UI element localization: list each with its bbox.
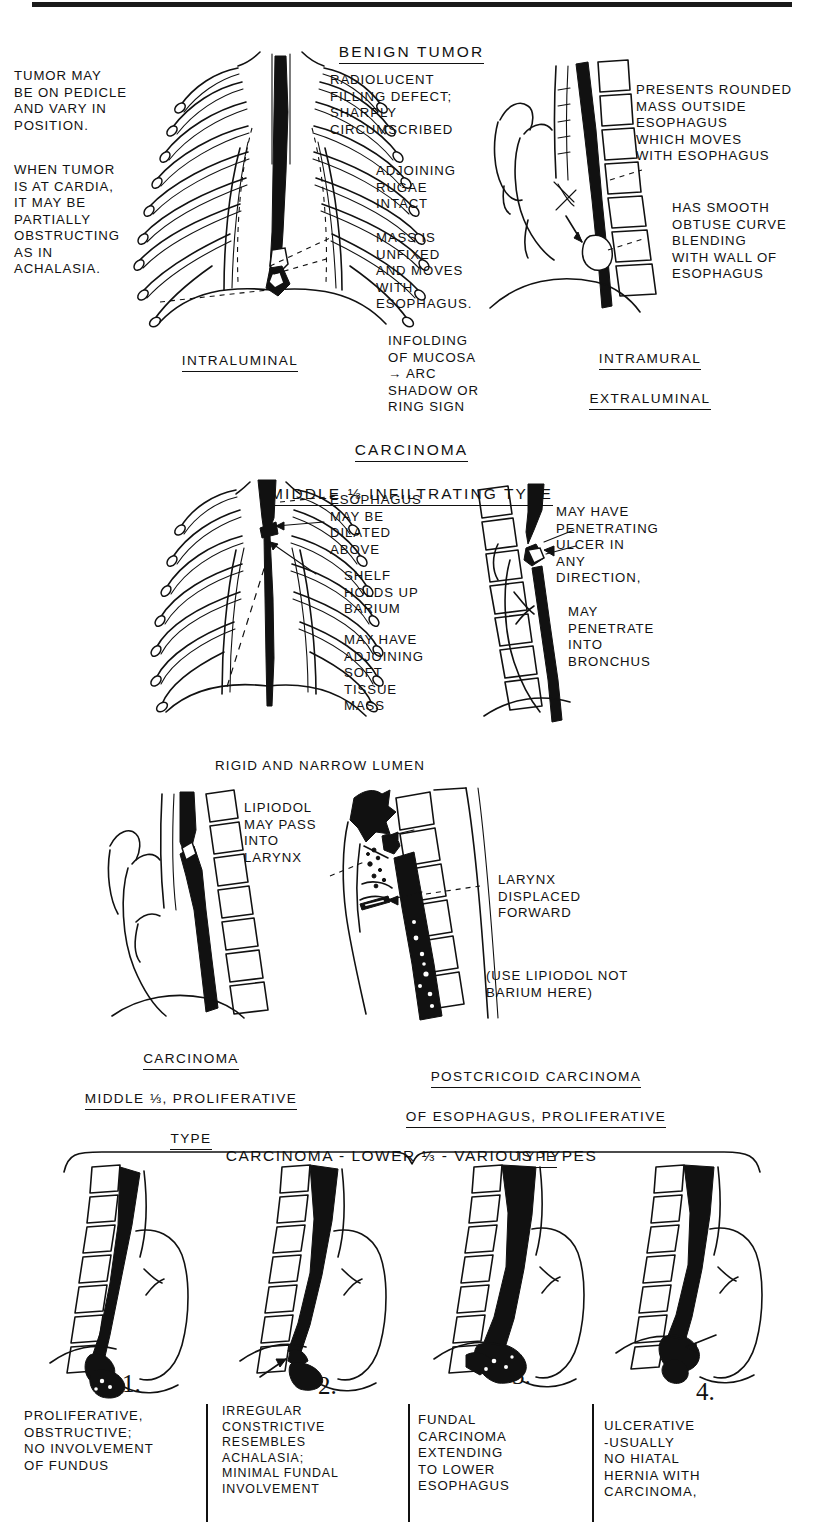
panel-divider-3 [592,1404,594,1522]
annotation-penetrating-ulcer: MAY HAVE PENETRATING ULCER IN ANY DIRECT… [556,504,716,587]
caption-mtp-line2: MIDDLE ⅓, PROLIFERATIVE [85,1089,297,1110]
lower-third-panel-3-drawing [424,1165,599,1380]
annotation-shelf-holds-barium: SHELF HOLDS UP BARIUM [344,568,474,618]
panel-number-3: 3. [512,1362,531,1390]
illustration-page: BENIGN TUMOR [0,0,823,1533]
annotation-use-lipiodol-note: (USE LIPIODOL NOT BARIUM HERE) [486,968,686,1001]
panel-number-2: 2. [318,1372,337,1400]
caption-lower-panel-4: ULCERATIVE -USUALLY NO HIATAL HERNIA WIT… [604,1418,784,1501]
annotation-tumor-pedicle: TUMOR MAY BE ON PEDICLE AND VARY IN POSI… [14,68,144,134]
caption-mtp-line1: CARCINOMA [143,1049,239,1070]
caption-postcricoid-line1: POSTCRICOID CARCINOMA [431,1067,642,1088]
annotation-penetrate-bronchus: MAY PENETRATE INTO BRONCHUS [568,604,718,670]
lower-third-panel-2-drawing [226,1165,401,1380]
annotation-esophagus-dilated: ESOPHAGUS MAY BE DILATED ABOVE [330,492,460,558]
annotation-tumor-cardia: WHEN TUMOR IS AT CARDIA, IT MAY BE PARTI… [14,162,144,278]
annotation-larynx-displaced: LARYNX DISPLACED FORWARD [498,872,638,922]
caption-extraluminal-text: EXTRALUMINAL [589,389,710,410]
caption-lower-panel-1: PROLIFERATIVE, OBSTRUCTIVE; NO INVOLVEME… [24,1408,194,1474]
carcinoma-heading-line1: CARCINOMA [355,439,469,462]
annotation-adjoining-rugae: ADJOINING RUGAE INTACT [376,163,506,213]
caption-intraluminal-text: INTRALUMINAL [182,351,299,372]
panel-number-1: 1. [122,1370,141,1398]
annotation-infolding-of-mucosa: INFOLDING OF MUCOSA → ARC SHADOW OR RING… [388,333,528,416]
caption-lower-panel-3: FUNDAL CARCINOMA EXTENDING TO LOWER ESOP… [418,1412,578,1495]
annotation-soft-tissue-mass: MAY HAVE ADJOINING SOFT TISSUE MASS [344,632,474,715]
top-rule-divider [32,2,792,7]
panel-divider-1 [206,1404,208,1522]
panel-number-4: 4. [696,1378,715,1406]
lower-third-panel-1-drawing [32,1165,207,1380]
annotation-presents-rounded-mass: PRESENTS ROUNDED MASS OUTSIDE ESOPHAGUS … [636,82,816,165]
panel-divider-2 [408,1404,410,1522]
caption-lower-panel-2: IRREGULAR CONSTRICTIVE RESEMBLES ACHALAS… [222,1404,402,1498]
annotation-radiolucent-filling-defect: RADIOLUCENT FILLING DEFECT; SHARPLY CIRC… [330,72,500,138]
caption-intramural-text: INTRAMURAL [599,349,701,370]
caption-intraluminal: INTRALUMINAL [150,332,330,372]
annotation-rigid-narrow-lumen: RIGID AND NARROW LUMEN [160,758,480,775]
caption-intramural-extraluminal: INTRAMURAL EXTRALUMINAL [520,330,780,410]
lower-third-panel-4-drawing [608,1165,793,1380]
annotation-smooth-obtuse-curve: HAS SMOOTH OBTUSE CURVE BLENDING WITH WA… [672,200,822,283]
annotation-mass-unfixed: MASS IS UNFIXED AND MOVES WITH ESOPHAGUS… [376,230,506,313]
